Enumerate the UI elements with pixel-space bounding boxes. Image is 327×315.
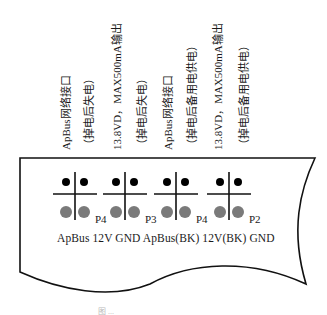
pin-bottom: [128, 206, 140, 218]
figure-caption: 图 ...: [98, 305, 114, 315]
pin-function-labels: ApBus 12V GND ApBus(BK) 12V(BK) GND: [57, 232, 275, 244]
pin-top: [80, 178, 88, 186]
pin-bottom: [60, 206, 72, 218]
pin-bottom: [232, 206, 244, 218]
pin-top: [234, 178, 242, 186]
pin-top: [163, 178, 171, 186]
pin-top: [62, 178, 70, 186]
pin-bottom: [78, 206, 90, 218]
pin-top: [112, 178, 120, 186]
pin-bottom: [161, 206, 173, 218]
connector-id-label: P4: [95, 213, 107, 225]
connector-id-label: P4: [196, 213, 208, 225]
connector-id-label: P3: [145, 213, 157, 225]
pin-bottom: [179, 206, 191, 218]
pin-top: [181, 178, 189, 186]
pin-top: [216, 178, 224, 186]
pin-bottom: [110, 206, 122, 218]
pin-top: [130, 178, 138, 186]
pin-bottom: [214, 206, 226, 218]
connector-id-label: P2: [249, 213, 261, 225]
circuit-board-outline: [0, 0, 327, 315]
